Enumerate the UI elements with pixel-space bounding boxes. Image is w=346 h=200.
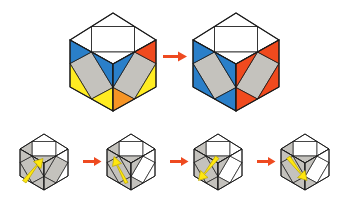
diagram-canvas bbox=[0, 0, 346, 200]
puzzle-cube-diagram bbox=[0, 0, 346, 200]
